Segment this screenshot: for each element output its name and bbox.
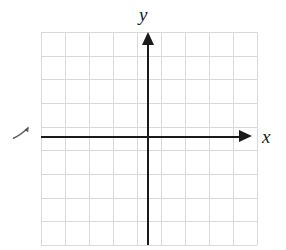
grid-vline-4: [137, 32, 138, 245]
grid-vline-2: [89, 32, 90, 245]
x-axis-label: x: [262, 127, 270, 146]
grid-vline-8: [233, 32, 234, 245]
small-arrow-mark-icon: [12, 124, 32, 140]
grid-vline-5: [161, 32, 162, 245]
x-axis-line: [41, 136, 244, 138]
grid-vline-9: [257, 32, 258, 245]
y-axis-arrow-icon: [142, 32, 154, 45]
grid-vline-3: [113, 32, 114, 245]
grid-vline-6: [185, 32, 186, 245]
grid-vline-0: [41, 32, 42, 245]
grid-hline-9: [41, 245, 257, 246]
y-axis-label: y: [139, 5, 147, 24]
y-axis-line: [147, 39, 149, 245]
grid-vline-7: [209, 32, 210, 245]
x-axis-arrow-icon: [239, 130, 252, 142]
grid-vline-1: [65, 32, 66, 245]
coordinate-plane-figure: y x: [0, 0, 286, 250]
